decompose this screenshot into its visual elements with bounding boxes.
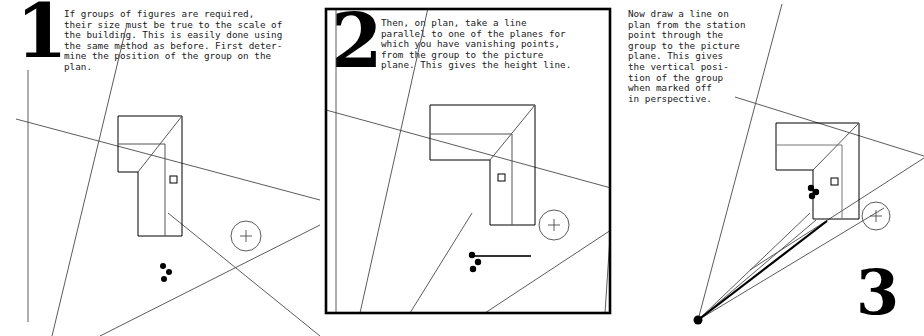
plan-square-marker xyxy=(498,174,505,181)
panel-step-3: 3 Now draw a line on plan from the stati… xyxy=(620,0,924,336)
station-point xyxy=(694,316,703,325)
upper-diagonal-line xyxy=(326,110,611,188)
diagram-panel-2 xyxy=(320,0,620,336)
steep-diagonal-line xyxy=(360,8,428,313)
roof-hip-line xyxy=(813,123,859,170)
figure-dot xyxy=(808,185,814,191)
figure-dot xyxy=(469,252,475,258)
diagram-panel-3 xyxy=(620,0,924,336)
picture-plane-line xyxy=(410,213,472,313)
sight-line-to-group xyxy=(698,221,827,320)
figure-dot xyxy=(160,263,166,269)
diagram-panel-1 xyxy=(0,0,320,336)
vanishing-marker-2 xyxy=(539,210,569,240)
building-outline xyxy=(430,105,535,225)
picture-plane-line xyxy=(698,220,816,320)
upper-diagonal-line xyxy=(735,97,924,156)
panel-step-2: 2 Then, on plan, take a line parallel to… xyxy=(320,0,620,336)
figure-dot xyxy=(161,276,167,282)
sight-line-upper xyxy=(698,213,810,320)
lower-right-diagonal xyxy=(485,230,611,313)
vanishing-marker-3 xyxy=(862,202,890,230)
upper-diagonal-line xyxy=(16,119,320,200)
figure-dot xyxy=(475,259,481,265)
steep-diagonal-line xyxy=(52,28,126,336)
instruction-plate: 1 If groups of figures are required, the… xyxy=(0,0,924,336)
plan-square-marker xyxy=(831,178,838,185)
figure-group-dots-1 xyxy=(160,263,172,282)
sight-lines-3 xyxy=(698,208,884,320)
building-plan-1 xyxy=(118,116,182,236)
sight-line-lower xyxy=(698,208,884,320)
lower-right-diagonal xyxy=(100,225,320,336)
picture-plane-line xyxy=(168,213,320,336)
plan-square-marker xyxy=(170,176,177,183)
figure-group-dots-2 xyxy=(469,252,481,272)
building-plan-2 xyxy=(430,105,535,225)
lower-right-diagonal xyxy=(750,158,924,270)
building-plan-3 xyxy=(776,123,859,219)
steep-diagonal-line xyxy=(698,4,782,320)
figure-dot xyxy=(470,266,476,272)
figure-dot xyxy=(166,269,172,275)
building-outline xyxy=(776,123,859,219)
figure-group-dots-3 xyxy=(808,185,819,199)
panel-step-1: 1 If groups of figures are required, the… xyxy=(0,0,320,336)
figure-dot xyxy=(809,193,815,199)
vanishing-marker-1 xyxy=(231,221,261,251)
panel-border xyxy=(326,9,610,313)
